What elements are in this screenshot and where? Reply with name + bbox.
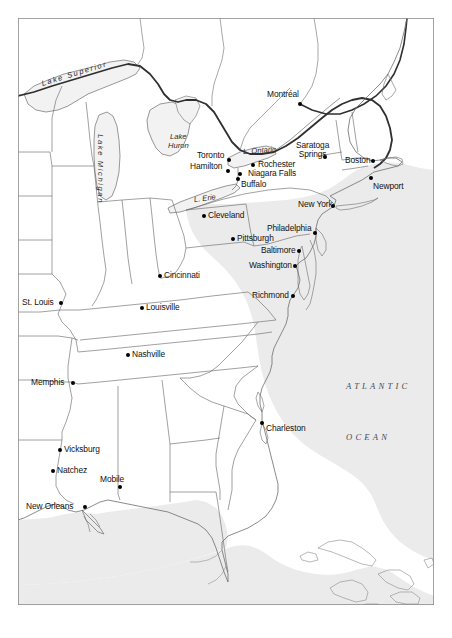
map-geometry [0, 0, 452, 638]
map-body [18, 18, 434, 610]
map-canvas: Lake SuperiorLake MichiganLakeHuronL. On… [0, 0, 452, 638]
